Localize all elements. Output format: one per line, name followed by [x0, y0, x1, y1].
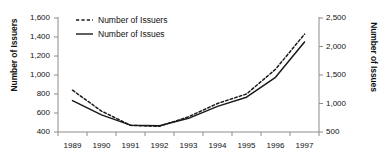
legend-label-issuers: Number of Issuers — [98, 15, 167, 25]
legend: Number of Issuers Number of Issues — [76, 13, 167, 41]
series-line-issues — [73, 42, 305, 126]
series-line-issuers — [73, 34, 305, 126]
series-layer — [73, 34, 305, 126]
solid-line-swatch — [76, 30, 93, 38]
legend-item-issues: Number of Issues — [76, 27, 167, 41]
dashed-line-swatch — [76, 16, 93, 24]
legend-label-issues: Number of Issues — [98, 29, 165, 39]
legend-item-issuers: Number of Issuers — [76, 13, 167, 27]
plot-area — [0, 0, 388, 159]
chart-container: Number of Issuers Number of Issues 40060… — [0, 0, 388, 159]
